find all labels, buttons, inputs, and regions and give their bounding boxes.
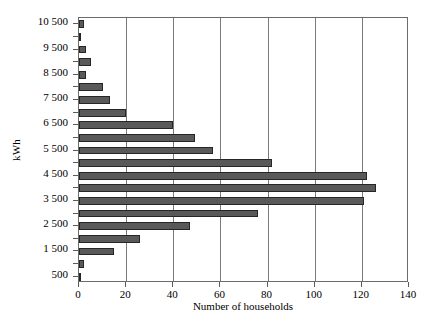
x-tick-label: 20 <box>105 288 145 300</box>
bar-row <box>79 109 407 117</box>
x-tick-label: 80 <box>247 288 287 300</box>
x-tick-label: 120 <box>341 288 381 300</box>
bar <box>79 235 140 243</box>
y-tick <box>73 99 78 100</box>
bar <box>79 172 367 180</box>
y-axis-title: kWh <box>10 120 22 180</box>
bar-row <box>79 159 407 167</box>
x-tick-label: 60 <box>199 288 239 300</box>
bar-row <box>79 248 407 256</box>
bar-row <box>79 197 407 205</box>
bar-row <box>79 147 407 155</box>
bar-row <box>79 134 407 142</box>
y-tick <box>73 74 78 75</box>
y-tick-label: 1 500 <box>43 242 68 254</box>
y-tick <box>73 250 78 251</box>
bar-row <box>79 20 407 28</box>
bar <box>79 159 272 167</box>
x-tick <box>172 282 173 287</box>
y-tick <box>73 175 78 176</box>
bar <box>79 96 110 104</box>
y-tick <box>73 61 78 62</box>
x-tick <box>219 282 220 287</box>
bar-row <box>79 172 407 180</box>
bar <box>79 20 84 28</box>
y-tick-label: 7 500 <box>43 91 68 103</box>
x-tick-label: 0 <box>58 288 98 300</box>
x-tick <box>408 282 409 287</box>
y-tick <box>73 137 78 138</box>
y-tick-label: 6 500 <box>43 116 68 128</box>
y-tick <box>73 162 78 163</box>
y-tick <box>73 225 78 226</box>
bar <box>79 260 84 268</box>
x-tick-label: 40 <box>152 288 192 300</box>
x-tick <box>267 282 268 287</box>
bar-row <box>79 83 407 91</box>
bar-row <box>79 71 407 79</box>
y-tick-label: 3 500 <box>43 192 68 204</box>
y-tick <box>73 263 78 264</box>
bar-row <box>79 96 407 104</box>
y-tick <box>73 238 78 239</box>
bar-chart: kWh Number of households 020406080100120… <box>0 0 428 325</box>
y-tick <box>73 200 78 201</box>
y-tick <box>73 187 78 188</box>
y-tick <box>73 150 78 151</box>
bar <box>79 184 376 192</box>
bar-row <box>79 235 407 243</box>
y-tick <box>73 23 78 24</box>
bar <box>79 210 258 218</box>
x-axis-title: Number of households <box>78 300 408 312</box>
y-tick-label: 500 <box>52 268 69 280</box>
y-tick-label: 10 500 <box>38 15 68 27</box>
bar-row <box>79 46 407 54</box>
bar-series <box>79 18 407 281</box>
bar <box>79 121 173 129</box>
y-tick <box>73 124 78 125</box>
bar <box>79 273 81 281</box>
bar <box>79 248 114 256</box>
bar <box>79 71 86 79</box>
x-tick <box>361 282 362 287</box>
x-tick-label: 140 <box>388 288 428 300</box>
x-tick <box>125 282 126 287</box>
bar-row <box>79 222 407 230</box>
y-tick <box>73 49 78 50</box>
bar <box>79 46 86 54</box>
bar-row <box>79 260 407 268</box>
bar <box>79 109 126 117</box>
bar-row <box>79 273 407 281</box>
y-tick <box>73 36 78 37</box>
bar <box>79 197 364 205</box>
x-tick <box>314 282 315 287</box>
bar <box>79 134 195 142</box>
y-tick <box>73 213 78 214</box>
bar-row <box>79 184 407 192</box>
y-tick <box>73 86 78 87</box>
bar <box>79 83 103 91</box>
bar <box>79 58 91 66</box>
bar-row <box>79 121 407 129</box>
y-tick <box>73 112 78 113</box>
bar <box>79 33 81 41</box>
bar-row <box>79 210 407 218</box>
y-tick-label: 2 500 <box>43 217 68 229</box>
y-tick-label: 5 500 <box>43 142 68 154</box>
y-tick-label: 4 500 <box>43 167 68 179</box>
x-tick <box>78 282 79 287</box>
y-tick-label: 8 500 <box>43 66 68 78</box>
bar <box>79 147 213 155</box>
y-tick <box>73 276 78 277</box>
y-tick-label: 9 500 <box>43 41 68 53</box>
x-tick-label: 100 <box>294 288 334 300</box>
bar <box>79 222 190 230</box>
bar-row <box>79 33 407 41</box>
plot-area <box>78 17 408 282</box>
bar-row <box>79 58 407 66</box>
